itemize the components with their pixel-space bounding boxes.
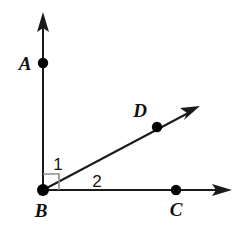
ray-bc — [43, 184, 232, 196]
point-a-dot — [38, 58, 48, 68]
point-b-dot — [37, 184, 49, 196]
angle-label-1: 1 — [53, 155, 62, 174]
point-c-dot — [171, 185, 181, 195]
ray-bd-line — [43, 111, 192, 190]
point-d-dot — [152, 122, 162, 132]
point-label-b: B — [34, 200, 48, 221]
geometry-canvas: A B C D 1 2 — [0, 0, 246, 232]
point-label-a: A — [18, 53, 32, 74]
ray-bd-arrowhead — [180, 106, 200, 120]
geometry-figure: A B C D 1 2 — [0, 0, 246, 232]
ray-ba — [37, 12, 49, 190]
point-label-d: D — [132, 100, 147, 121]
point-label-c: C — [170, 199, 183, 220]
angle-label-2: 2 — [92, 172, 101, 191]
ray-bd — [43, 106, 200, 190]
